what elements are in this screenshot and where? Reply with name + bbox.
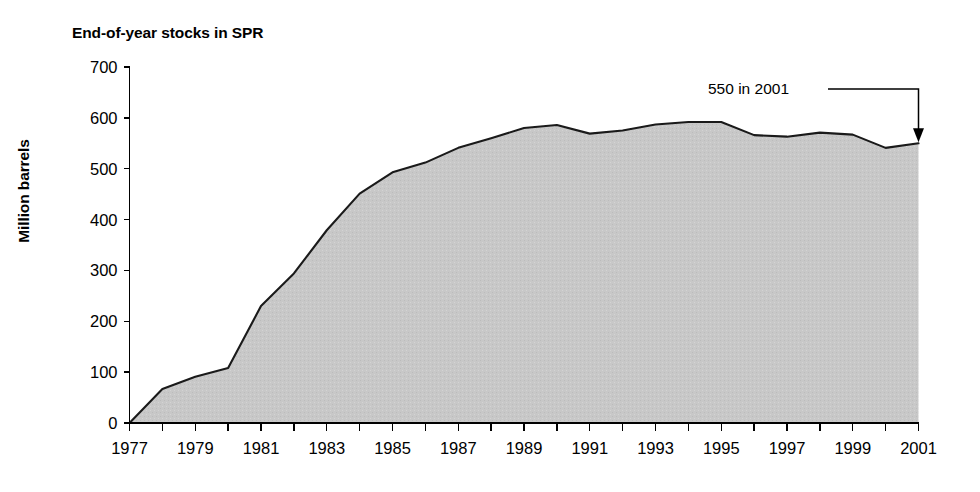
svg-text:300: 300	[90, 261, 118, 279]
svg-text:1995: 1995	[703, 439, 740, 457]
svg-text:1993: 1993	[637, 439, 674, 457]
svg-text:1987: 1987	[440, 439, 477, 457]
svg-text:1985: 1985	[374, 439, 411, 457]
chart-figure: End-of-year stocks in SPR Million barrel…	[0, 0, 980, 492]
svg-text:1997: 1997	[769, 439, 806, 457]
svg-text:0: 0	[108, 414, 117, 432]
x-tick-labels: 1977197919811983198519871989199119931995…	[111, 439, 937, 457]
svg-text:500: 500	[90, 160, 118, 178]
svg-text:1979: 1979	[177, 439, 214, 457]
svg-text:700: 700	[90, 58, 118, 76]
svg-text:1991: 1991	[571, 439, 608, 457]
svg-text:200: 200	[90, 312, 118, 330]
x-axis	[130, 423, 919, 431]
area-fill	[130, 122, 919, 423]
area-chart-plot: 0100200300400500600700 19771979198119831…	[0, 0, 980, 492]
svg-text:1981: 1981	[243, 439, 280, 457]
svg-text:1977: 1977	[111, 439, 148, 457]
y-axis	[124, 67, 130, 423]
svg-text:600: 600	[90, 109, 118, 127]
svg-text:2001: 2001	[900, 439, 937, 457]
svg-text:1983: 1983	[308, 439, 345, 457]
svg-text:550 in 2001: 550 in 2001	[708, 80, 789, 97]
y-tick-labels: 0100200300400500600700	[90, 58, 118, 432]
svg-text:1989: 1989	[506, 439, 543, 457]
svg-text:100: 100	[90, 363, 118, 381]
svg-text:1999: 1999	[834, 439, 871, 457]
svg-text:400: 400	[90, 211, 118, 229]
